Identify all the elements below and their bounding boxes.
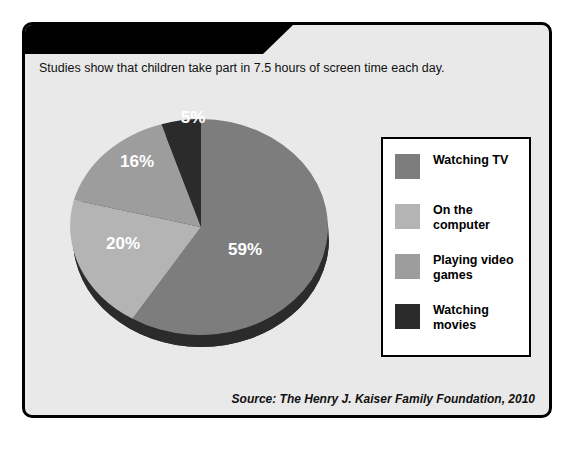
- legend-item: On the computer: [395, 203, 529, 253]
- legend-item-label: Watching TV: [433, 153, 508, 168]
- slice-value-label: 59%: [228, 240, 262, 259]
- subtitle-text: Studies show that children take part in …: [39, 61, 445, 75]
- legend-swatch-icon: [395, 154, 420, 179]
- legend-item: Watching movies: [395, 303, 529, 353]
- legend-swatch-icon: [395, 304, 420, 329]
- pie-chart-svg: 59% 20% 16% 5%: [49, 87, 365, 347]
- legend-swatch-icon: [395, 204, 420, 229]
- pie-chart: 59% 20% 16% 5%: [49, 87, 365, 347]
- legend-item-label: Watching movies: [433, 303, 489, 332]
- pie-slices: [70, 119, 328, 335]
- legend-item-label: Playing video games: [433, 253, 514, 282]
- infographic-frame: How Children Use Screens Studies show th…: [22, 22, 552, 418]
- legend-item: Watching TV: [395, 153, 529, 203]
- legend-swatch-icon: [395, 254, 420, 279]
- source-attribution: Source: The Henry J. Kaiser Family Found…: [232, 392, 535, 406]
- chart-legend: Watching TV On the computer Playing vide…: [381, 137, 531, 357]
- title-banner: [25, 25, 293, 54]
- slice-value-label: 5%: [181, 108, 206, 127]
- legend-item-label: On the computer: [433, 203, 490, 232]
- legend-item: Playing video games: [395, 253, 529, 303]
- slice-value-label: 20%: [106, 234, 140, 253]
- slice-value-label: 16%: [120, 152, 154, 171]
